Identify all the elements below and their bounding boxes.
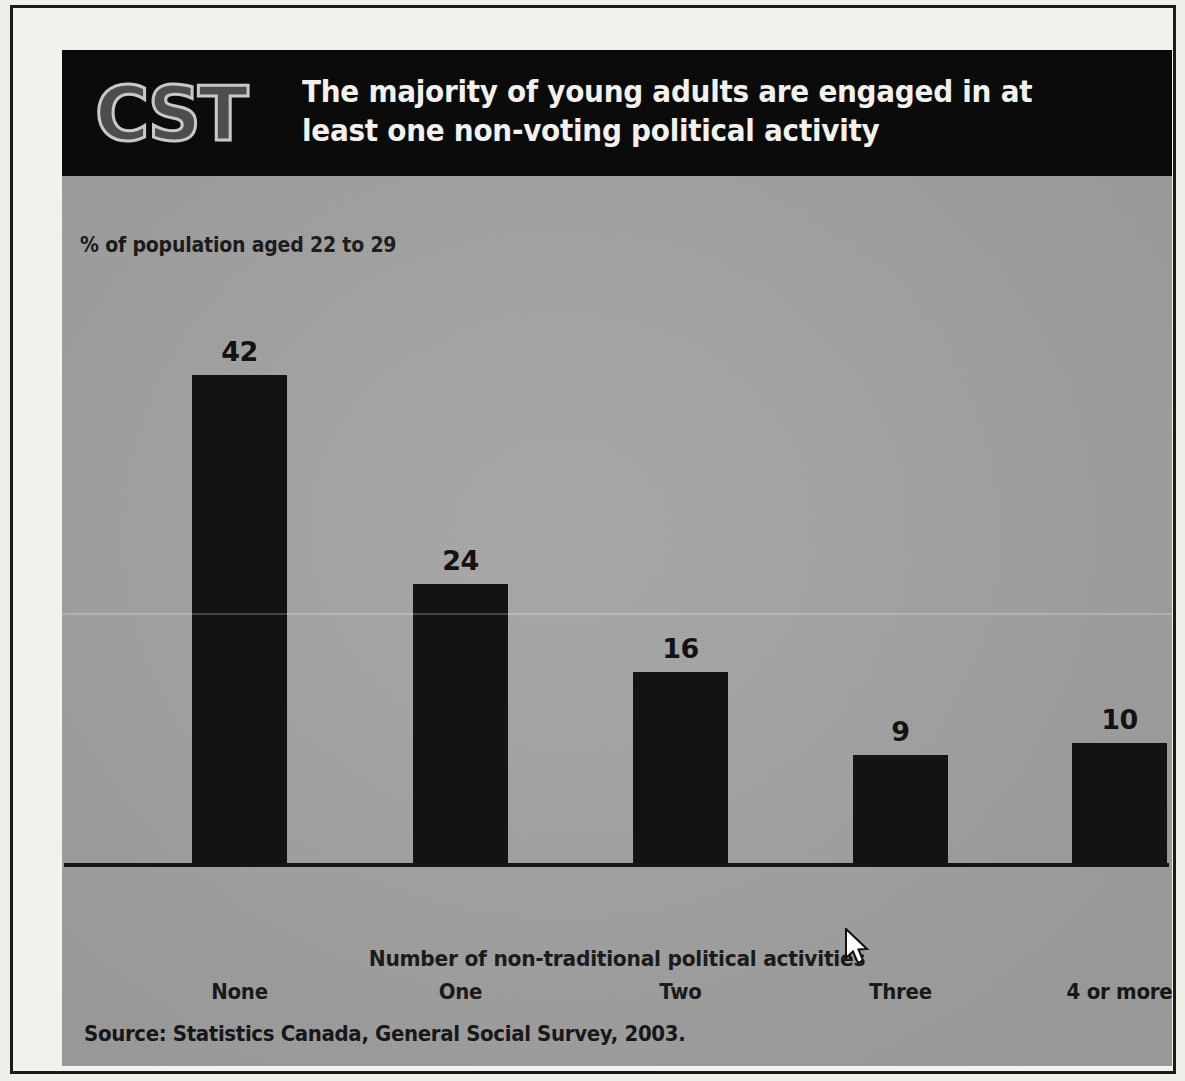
bar-category-three: Three [834,979,966,1004]
plot-area: 42 None 24 One 16 Two 9 Three [62,176,1172,1066]
bar-value-four-or-more: 10 [1072,704,1167,735]
bar-four-or-more[interactable] [1072,743,1167,867]
bar-group-four-or-more: 10 4 or more [1072,267,1167,867]
source-note: Source: Statistics Canada, General Socia… [84,1021,685,1046]
bar-category-four-or-more: 4 or more [1053,979,1172,1004]
x-axis-title: Number of non-traditional political acti… [106,946,1127,971]
bar-value-none: 42 [192,336,287,367]
bar-group-three: 9 Three [853,267,948,867]
chart-header-band: CST The majority of young adults are eng… [62,50,1172,176]
bar-value-two: 16 [633,633,728,664]
bar-group-none: 42 None [192,267,287,867]
bar-category-one: One [394,979,526,1004]
bar-value-one: 24 [413,545,508,576]
bar-none[interactable] [192,375,287,867]
bar-category-none: None [173,979,305,1004]
bar-three[interactable] [853,755,948,867]
bar-group-one: 24 One [413,267,508,867]
chart-figure: CST The majority of young adults are eng… [62,50,1172,1066]
bar-two[interactable] [633,672,728,867]
bar-value-three: 9 [853,716,948,747]
bar-category-two: Two [614,979,746,1004]
x-axis-line [64,863,1169,867]
bar-group-two: 16 Two [633,267,728,867]
chart-panel: % of population aged 22 to 29 42 None 24… [62,176,1172,1066]
cst-logo: CST [95,64,295,164]
scanned-page: CST The majority of young adults are eng… [0,0,1185,1081]
chart-title: The majority of young adults are engaged… [302,72,1088,150]
bar-one[interactable] [413,584,508,867]
